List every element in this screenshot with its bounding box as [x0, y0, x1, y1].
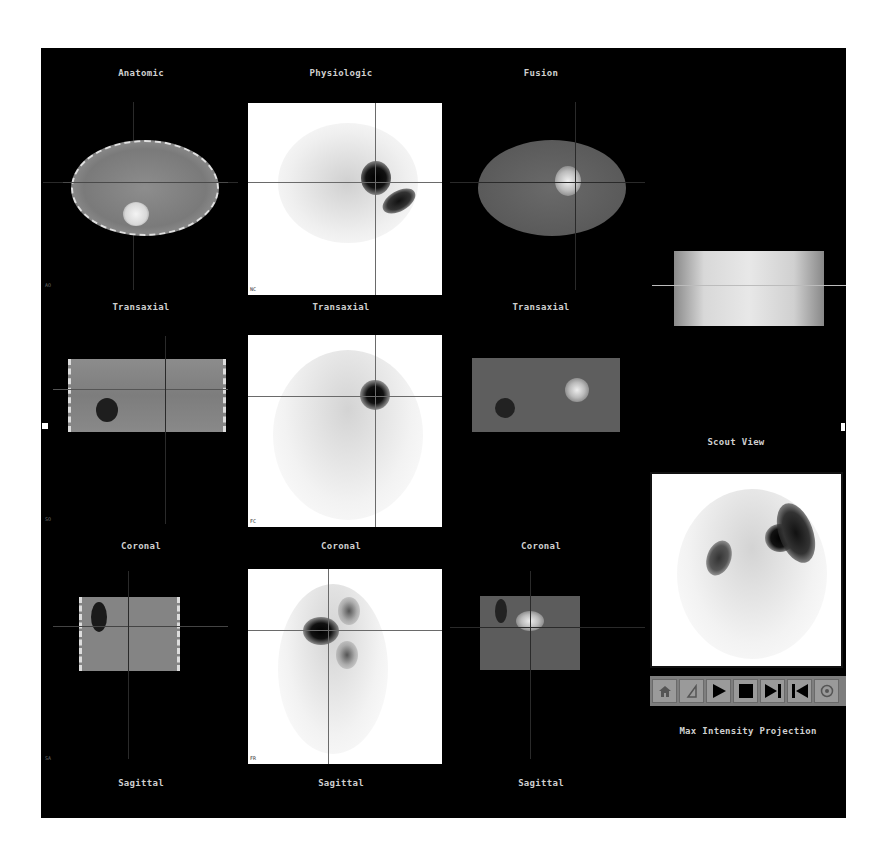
left-edge-marker[interactable] [42, 423, 48, 429]
row-label-transaxial-physiologic: Transaxial [281, 302, 401, 312]
pet-hotspot [361, 161, 391, 195]
column-header-physiologic: Physiologic [281, 68, 401, 78]
pet-sagittal-view[interactable]: FR [248, 569, 442, 764]
row-label-sagittal-anatomic: Sagittal [81, 778, 201, 788]
pet-uptake-body [278, 123, 418, 243]
home-icon [657, 684, 673, 698]
column-header-fusion: Fusion [481, 68, 601, 78]
scout-view-label: Scout View [671, 437, 801, 447]
fusion-transaxial-view[interactable] [450, 102, 645, 290]
step-forward-button[interactable] [760, 679, 785, 703]
right-edge-marker[interactable] [841, 423, 845, 431]
settings-icon [820, 684, 834, 698]
row-label-transaxial-anatomic: Transaxial [81, 302, 201, 312]
ct-transaxial-view[interactable] [43, 102, 238, 290]
fusion-viewer: Anatomic Physiologic Fusion AO NC Transa… [41, 48, 846, 818]
corner-label: SA [45, 755, 51, 761]
ct-coronal-view[interactable] [43, 336, 238, 524]
pet-transaxial-view[interactable]: NC [248, 103, 442, 295]
settings-button[interactable] [814, 679, 839, 703]
stop-button[interactable] [733, 679, 758, 703]
corner-label: AO [45, 282, 51, 288]
fusion-sagittal-view[interactable] [450, 571, 645, 759]
mip-label: Max Intensity Projection [653, 726, 843, 736]
corner-label: FC [250, 518, 256, 524]
fusion-coronal-view[interactable] [450, 336, 645, 524]
pet-hotspot [303, 617, 339, 645]
row-label-sagittal-physiologic: Sagittal [281, 778, 401, 788]
corner-label: FR [250, 755, 256, 761]
mip-view[interactable] [650, 472, 843, 668]
row-label-coronal-physiologic: Coronal [281, 541, 401, 551]
ct-sagittal-view[interactable] [43, 571, 238, 759]
step-forward-icon [764, 683, 782, 699]
column-header-anatomic: Anatomic [81, 68, 201, 78]
ct-coronal-image [68, 359, 226, 432]
row-label-coronal-fusion: Coronal [481, 541, 601, 551]
window-level-button[interactable] [679, 679, 704, 703]
play-icon [711, 683, 727, 699]
stop-icon [738, 683, 754, 699]
play-button[interactable] [706, 679, 731, 703]
scout-view[interactable] [650, 243, 846, 333]
step-back-icon [791, 683, 809, 699]
row-label-sagittal-fusion: Sagittal [481, 778, 601, 788]
home-button[interactable] [652, 679, 677, 703]
cine-toolbar [650, 676, 846, 706]
row-label-coronal-anatomic: Coronal [81, 541, 201, 551]
corner-label: NC [250, 286, 256, 292]
pet-coronal-view[interactable]: FC [248, 335, 442, 527]
ct-spine [123, 202, 149, 226]
corner-label: SO [45, 516, 51, 522]
step-back-button[interactable] [787, 679, 812, 703]
scout-image [674, 251, 824, 326]
window-level-icon [685, 684, 699, 698]
row-label-transaxial-fusion: Transaxial [481, 302, 601, 312]
scout-slice-line[interactable] [652, 285, 846, 286]
